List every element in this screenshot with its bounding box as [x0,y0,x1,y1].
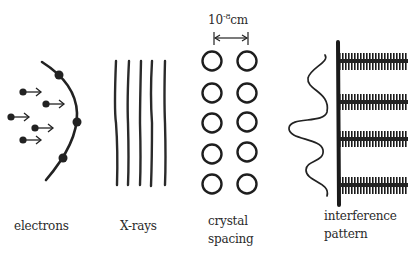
screen-bar [338,42,339,205]
electron-arrow [7,113,29,121]
electron-arrow [19,136,41,144]
intensity-wave [289,55,327,196]
atom [238,175,257,194]
wavefront-dot [59,154,68,163]
atom [238,113,257,132]
label-xrays: X-rays [120,218,157,234]
label-electrons: electrons [14,218,69,234]
atom [238,143,257,162]
atom [203,145,222,164]
wavefront-dot [55,71,64,80]
label-spacing: spacing [208,231,254,247]
atom [203,52,222,71]
atom [203,175,222,194]
label-pattern: pattern [324,226,368,242]
electron-arrow [19,88,41,96]
scale-label: 10-8cm [208,12,248,28]
scale-base: 10 [208,13,223,27]
wavefront-dot [73,118,82,127]
atom [238,84,257,103]
scale-indicator [214,32,248,45]
electron-arrow [31,124,53,132]
electron-arrow [42,100,64,108]
crystal-lattice [203,52,257,194]
label-crystal: crystal [208,213,248,229]
xray-lines [115,61,166,186]
wavefront-arc [42,62,77,180]
interference-bands [340,53,408,194]
atom [203,114,222,133]
electrons-group [7,62,81,180]
atom [203,84,222,103]
label-interference: interference [324,208,397,224]
atom [238,52,257,71]
scale-unit: cm [230,13,248,27]
